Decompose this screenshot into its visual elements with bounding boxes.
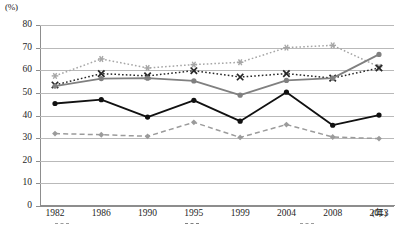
data-point-star — [98, 56, 105, 62]
data-point-circle — [284, 90, 289, 95]
data-point-star — [237, 59, 244, 65]
data-point-diamond — [330, 134, 336, 140]
x-axis-unit-label: (年) — [372, 209, 387, 218]
legend-swatch — [300, 223, 314, 224]
data-point-diamond — [191, 119, 197, 125]
data-point-circle — [191, 98, 196, 103]
data-point-circle — [99, 76, 104, 81]
data-point-diamond — [284, 122, 290, 128]
chart-legend — [0, 219, 409, 228]
data-point-circle — [376, 112, 381, 117]
data-point-circle — [330, 76, 335, 81]
data-point-star — [144, 65, 151, 71]
data-point-star — [191, 62, 198, 68]
y-axis-tick-label: 40 — [6, 111, 32, 121]
y-axis-tick — [36, 206, 40, 207]
y-axis-tick-label: 50 — [6, 88, 32, 98]
data-point-diamond — [376, 136, 382, 142]
data-point-diamond — [52, 131, 58, 137]
x-axis-tick-label: 2008 — [313, 209, 353, 219]
data-point-circle — [99, 97, 104, 102]
chart-container: (%) 01020304050607080 198219861990199519… — [0, 0, 409, 228]
x-axis-tick-label: 1986 — [81, 209, 121, 219]
data-point-circle — [145, 114, 150, 119]
data-point-circle — [191, 78, 196, 83]
data-point-circle — [52, 101, 57, 106]
data-point-circle — [284, 78, 289, 83]
y-axis-tick-label: 80 — [6, 20, 32, 30]
data-point-star — [283, 45, 290, 51]
x-axis-tick-label: 1999 — [220, 209, 260, 219]
legend-swatch — [185, 223, 199, 224]
y-axis-tick-label: 30 — [6, 133, 32, 143]
series-line — [55, 92, 379, 125]
x-axis-tick-label: 1990 — [128, 209, 168, 219]
y-axis-tick-label: 20 — [6, 156, 32, 166]
x-axis-tick-label: 2004 — [266, 209, 306, 219]
x-axis-tick-label: 1995 — [174, 209, 214, 219]
series-layer — [40, 25, 394, 206]
data-point-circle — [52, 83, 57, 88]
data-point-star — [329, 43, 336, 49]
y-axis-tick-label: 70 — [6, 43, 32, 53]
y-axis-tick-label: 0 — [6, 201, 32, 211]
legend-item — [55, 219, 71, 228]
data-point-diamond — [145, 133, 151, 139]
gridline — [40, 206, 394, 207]
legend-swatch — [55, 223, 69, 224]
data-point-circle — [376, 52, 381, 57]
data-point-diamond — [98, 132, 104, 138]
data-point-diamond — [237, 135, 243, 141]
data-point-cross — [237, 74, 243, 80]
data-point-circle — [238, 93, 243, 98]
data-point-star — [52, 73, 59, 79]
y-axis-tick-label: 10 — [6, 178, 32, 188]
data-point-circle — [330, 123, 335, 128]
plot-area — [40, 25, 394, 205]
legend-item — [185, 219, 201, 228]
legend-item — [300, 219, 316, 228]
y-axis-tick-label: 60 — [6, 65, 32, 75]
data-point-circle — [238, 119, 243, 124]
x-axis-tick-label: 1982 — [35, 209, 75, 219]
y-axis-unit-label: (%) — [5, 2, 18, 12]
data-point-circle — [145, 76, 150, 81]
